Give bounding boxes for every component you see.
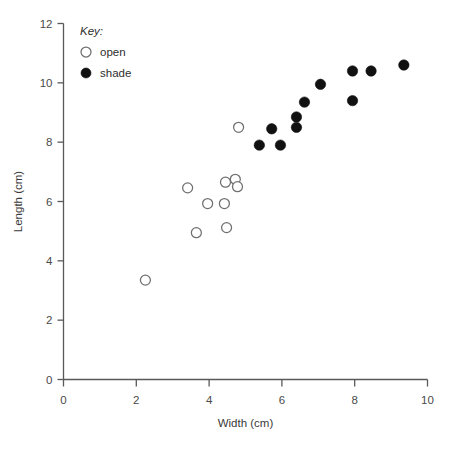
- legend-label-shade: shade: [100, 67, 131, 79]
- data-point-shade: [366, 66, 376, 76]
- y-tick-label-6: 6: [46, 196, 52, 208]
- data-point-shade: [315, 79, 325, 89]
- x-tick-label-8: 8: [351, 394, 357, 406]
- data-point-open: [191, 228, 201, 238]
- x-tick-label-6: 6: [279, 394, 285, 406]
- data-point-shade: [347, 95, 357, 105]
- x-axis-title: Width (cm): [218, 417, 274, 429]
- y-tick-label-8: 8: [46, 136, 52, 148]
- y-tick-label-0: 0: [46, 374, 52, 386]
- data-point-open: [183, 183, 193, 193]
- legend-title: Key:: [80, 25, 103, 37]
- scatter-plot-figure: 0246810120246810Width (cm)Length (cm) Ke…: [0, 0, 450, 455]
- data-point-open: [232, 182, 242, 192]
- y-tick-label-12: 12: [40, 18, 53, 30]
- legend-marker-open: [81, 47, 91, 57]
- y-axis-title: Length (cm): [12, 171, 24, 233]
- data-point-shade: [399, 60, 409, 70]
- data-point-shade: [254, 140, 264, 150]
- axes: 0246810120246810Width (cm)Length (cm): [12, 18, 434, 429]
- data-point-open: [220, 177, 230, 187]
- legend: Key:openshade: [80, 25, 131, 79]
- y-tick-label-10: 10: [40, 77, 53, 89]
- data-point-shade: [291, 112, 301, 122]
- data-point-shade: [267, 124, 277, 134]
- x-tick-label-4: 4: [206, 394, 213, 406]
- data-point-shade: [299, 97, 309, 107]
- data-point-open: [234, 122, 244, 132]
- y-tick-label-4: 4: [46, 255, 53, 267]
- data-point-open: [222, 223, 232, 233]
- data-point-shade: [291, 122, 301, 132]
- data-point-open: [203, 199, 213, 209]
- x-tick-label-0: 0: [60, 394, 66, 406]
- legend-label-open: open: [100, 46, 126, 58]
- plot-canvas: 0246810120246810Width (cm)Length (cm) Ke…: [0, 0, 450, 455]
- data-point-open: [140, 275, 150, 285]
- x-tick-label-2: 2: [133, 394, 139, 406]
- data-point-open: [219, 199, 229, 209]
- x-tick-label-10: 10: [421, 394, 434, 406]
- y-tick-label-2: 2: [46, 314, 52, 326]
- data-point-shade: [347, 66, 357, 76]
- data-point-shade: [275, 140, 285, 150]
- data-points: [140, 60, 409, 285]
- legend-marker-shade: [81, 68, 91, 78]
